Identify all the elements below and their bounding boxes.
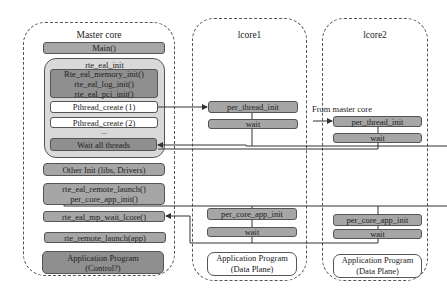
connector-lines xyxy=(0,0,447,296)
remote-launch-to-lcores-line xyxy=(64,205,447,206)
lcore1-wait-to-wait-all-arrow xyxy=(252,129,447,146)
lcore-waits-to-mp-wait-arrow xyxy=(166,216,252,243)
